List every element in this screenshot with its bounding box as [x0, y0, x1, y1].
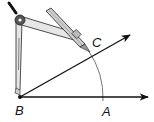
label-A: A [101, 104, 111, 119]
point-B [18, 95, 22, 99]
compass-diagram: B A C [0, 0, 154, 122]
compass-icon [9, 3, 90, 95]
label-C: C [92, 35, 102, 50]
label-B: B [15, 103, 24, 118]
ray-BC [20, 35, 130, 97]
